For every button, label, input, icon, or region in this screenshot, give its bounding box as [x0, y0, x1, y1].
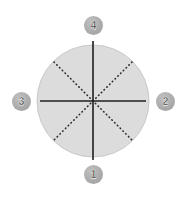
diagram-canvas: 4 2 3 1 [0, 0, 185, 197]
badge-right-label: 2 [163, 97, 169, 107]
badge-right-2[interactable]: 2 [156, 92, 175, 111]
badge-top-label: 4 [91, 21, 97, 31]
badge-left-label: 3 [19, 97, 25, 107]
badge-bottom-1[interactable]: 1 [84, 165, 103, 184]
badge-top-4[interactable]: 4 [84, 16, 103, 35]
badge-bottom-label: 1 [91, 170, 97, 180]
badge-left-3[interactable]: 3 [12, 92, 31, 111]
